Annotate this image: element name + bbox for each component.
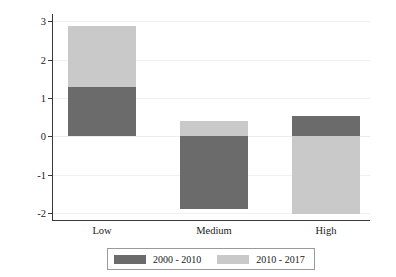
bar-segment-low-2000-2010 xyxy=(68,87,136,136)
bar-group-low xyxy=(68,14,136,220)
legend-label-2010-2017: 2010 - 2017 xyxy=(256,254,304,265)
bar-segment-medium-2000-2010 xyxy=(180,136,248,209)
bar-group-high xyxy=(292,14,360,220)
x-axis-line xyxy=(52,220,370,221)
plot-area: 3 2 1 0 -1 -2 xyxy=(52,14,370,220)
x-axis-label-medium: Medium xyxy=(196,225,232,236)
x-axis-label-high: High xyxy=(316,225,337,236)
legend-label-2000-2010: 2000 - 2010 xyxy=(153,254,201,265)
x-axis-label-low: Low xyxy=(92,225,111,236)
chart-container: Change in share in employment (ppts) 3 2… xyxy=(0,0,396,277)
y-tick-mark-3 xyxy=(48,21,52,22)
y-tick-label-neg1: -1 xyxy=(37,169,46,180)
y-tick-mark-0 xyxy=(48,136,52,137)
y-axis-line xyxy=(52,14,53,220)
bar-segment-high-2010-2017 xyxy=(292,136,360,214)
bar-segment-medium-2010-2017 xyxy=(180,121,248,136)
legend-entry-2000-2010: 2000 - 2010 xyxy=(114,249,201,269)
y-tick-mark-1 xyxy=(48,98,52,99)
legend: 2000 - 2010 2010 - 2017 xyxy=(107,248,315,270)
y-tick-mark-neg1 xyxy=(48,175,52,176)
y-tick-label-2: 2 xyxy=(41,54,46,65)
y-tick-mark-neg2 xyxy=(48,213,52,214)
legend-swatch-icon-2000-2010 xyxy=(114,255,146,264)
bar-segment-low-2010-2017 xyxy=(68,26,136,87)
bar-group-medium xyxy=(180,14,248,220)
bar-segment-high-2000-2010 xyxy=(292,116,360,136)
y-tick-label-1: 1 xyxy=(41,93,46,104)
legend-entry-2010-2017: 2010 - 2017 xyxy=(217,249,304,269)
y-tick-mark-2 xyxy=(48,60,52,61)
legend-swatch-icon-2010-2017 xyxy=(217,255,249,264)
y-tick-label-0: 0 xyxy=(41,131,46,142)
y-tick-label-neg2: -2 xyxy=(37,208,46,219)
y-tick-label-3: 3 xyxy=(41,16,46,27)
